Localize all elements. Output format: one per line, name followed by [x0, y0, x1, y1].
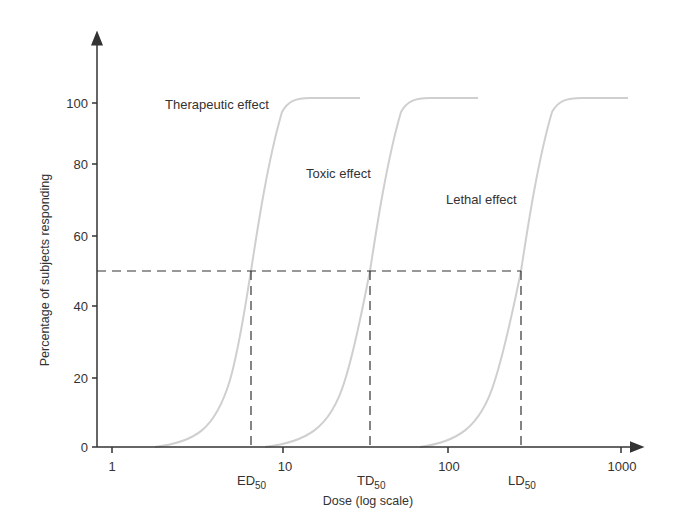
toxic-curve [265, 98, 478, 447]
y-tick-40: 40 [74, 299, 88, 314]
y-tick-20: 20 [74, 371, 88, 386]
therapeutic-curve [155, 98, 360, 447]
toxic-effect-label: Toxic effect [306, 166, 371, 181]
td50-label: TD50 [357, 473, 386, 491]
x-tick-1: 1 [108, 459, 115, 474]
ed50-label: ED50 [237, 473, 267, 491]
x-tick-100: 100 [438, 459, 460, 474]
therapeutic-effect-label: Therapeutic effect [165, 97, 269, 112]
x-axis-title: Dose (log scale) [323, 494, 413, 508]
dose-response-chart: 0 20 40 60 80 100 1 10 100 1000 ED50 TD5… [0, 0, 678, 531]
lethal-curve [420, 98, 628, 447]
x-tick-1000: 1000 [608, 459, 637, 474]
y-axis-title: Percentage of subjects responding [38, 174, 52, 367]
lethal-effect-label: Lethal effect [446, 192, 517, 207]
y-tick-labels: 0 20 40 60 80 100 [66, 96, 88, 455]
y-tick-80: 80 [74, 157, 88, 172]
y-tick-0: 0 [81, 440, 88, 455]
x-tick-10: 10 [278, 459, 292, 474]
y-tick-100: 100 [66, 96, 88, 111]
curves [155, 98, 628, 447]
dashed-guides [97, 271, 521, 447]
x-tick-labels: 1 10 100 1000 [108, 459, 636, 474]
ld50-label: LD50 [508, 473, 536, 491]
y-tick-60: 60 [74, 229, 88, 244]
